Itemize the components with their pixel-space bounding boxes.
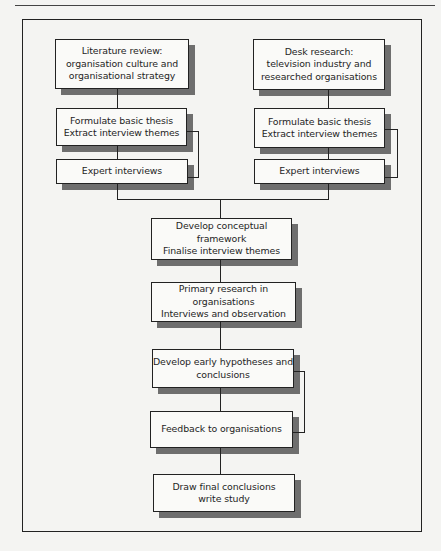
early-hypotheses-box: Develop early hypotheses and conclusions	[152, 349, 294, 388]
loop-connector	[293, 432, 305, 433]
page-top-rule	[15, 5, 435, 6]
connector	[220, 322, 221, 349]
connector	[220, 260, 221, 282]
desk-research-box: Desk research: television industry and r…	[253, 39, 385, 90]
right-expert-interviews-box: Expert interviews	[254, 159, 385, 184]
conceptual-framework-box: Develop conceptual framework Finalise in…	[151, 218, 292, 260]
final-conclusions-box: Draw final conclusions write study	[153, 474, 295, 512]
loop-connector	[198, 131, 199, 178]
connector	[328, 90, 329, 108]
connector	[328, 184, 329, 200]
connector	[220, 199, 221, 218]
literature-review-box: Literature review: organisation culture …	[55, 39, 189, 89]
merge-connector	[117, 199, 329, 200]
connector	[117, 146, 118, 159]
right-thesis-box: Formulate basic thesis Extract interview…	[254, 108, 385, 148]
loop-connector	[385, 177, 398, 178]
connector	[220, 448, 221, 474]
left-expert-interviews-box: Expert interviews	[56, 159, 188, 184]
primary-research-box: Primary research in organisations Interv…	[151, 282, 296, 322]
left-thesis-box: Formulate basic thesis Extract interview…	[56, 108, 187, 146]
loop-connector	[304, 371, 305, 433]
connector	[117, 184, 118, 200]
figure-frame	[22, 19, 422, 532]
connector	[220, 388, 221, 411]
loop-connector	[188, 177, 199, 178]
feedback-box: Feedback to organisations	[150, 411, 293, 448]
connector	[328, 148, 329, 159]
connector	[117, 89, 118, 108]
loop-connector	[397, 129, 398, 178]
